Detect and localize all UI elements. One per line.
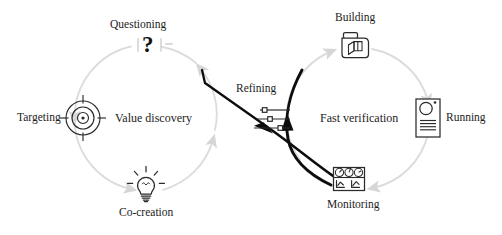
label-co-creation: Co-creation xyxy=(119,207,173,219)
label-building: Building xyxy=(335,12,375,24)
package-box-icon xyxy=(342,33,369,58)
server-icon xyxy=(416,99,440,137)
diagram-svg xyxy=(0,0,502,235)
label-monitoring: Monitoring xyxy=(327,199,379,211)
dashboard-icon xyxy=(334,168,365,191)
label-fast-verification: Fast verification xyxy=(320,112,398,124)
label-refining: Refining xyxy=(236,83,276,95)
label-targeting: Targeting xyxy=(17,112,61,124)
label-running: Running xyxy=(446,112,486,124)
label-questioning: Questioning xyxy=(110,19,166,31)
question-mark-icon: ? xyxy=(142,33,154,56)
diagram-canvas: Targeting Questioning ? Co-creation Valu… xyxy=(0,0,502,235)
target-icon xyxy=(60,95,106,141)
label-value-discovery: Value discovery xyxy=(115,112,192,124)
lightbulb-icon xyxy=(128,167,165,202)
